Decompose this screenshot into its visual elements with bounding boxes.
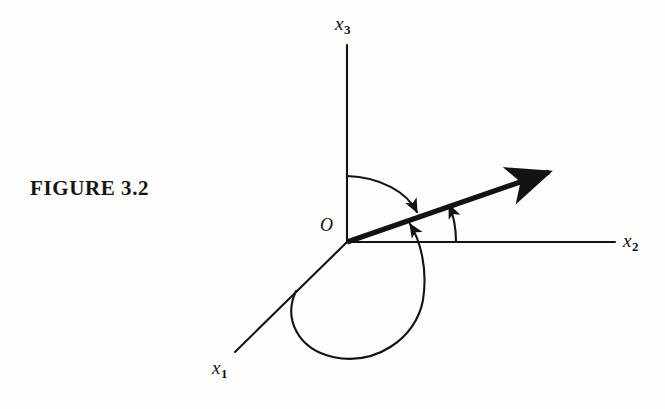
arc-angle-to-x3-icon: [347, 176, 417, 212]
arc-angle-to-x2-icon: [449, 205, 456, 242]
axis-x1-line: [235, 242, 347, 352]
axis-label-x2: x2: [623, 231, 638, 253]
axis-label-x1: x1: [212, 358, 227, 380]
angle-arcs: [291, 176, 456, 359]
direction-vector-arrow: [347, 172, 549, 242]
axis-label-x2-base: x: [623, 230, 631, 251]
axis-label-x2-subscript: 2: [632, 239, 639, 254]
origin-label-base: O: [320, 215, 333, 235]
coordinate-axes-diagram: [0, 0, 665, 409]
figure-page: FIGURE 3.2 x3: [0, 0, 665, 409]
axis-label-x3: x3: [335, 14, 350, 36]
origin-label: O: [320, 216, 333, 234]
axis-label-x1-subscript: 1: [221, 366, 228, 381]
axis-label-x1-base: x: [212, 357, 220, 378]
axis-label-x3-base: x: [335, 13, 343, 34]
axis-label-x3-subscript: 3: [344, 22, 351, 37]
arc-angle-to-x1-icon: [291, 224, 424, 359]
